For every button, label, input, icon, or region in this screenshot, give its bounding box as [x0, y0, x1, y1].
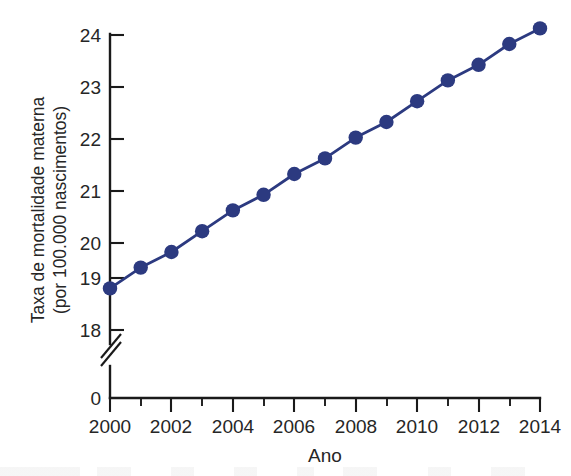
y-axis-title-line2: (por 100.000 nascimentos): [50, 106, 70, 314]
data-point-2000: [103, 281, 117, 295]
data-point-2013: [502, 37, 516, 51]
origin-zero-label: 0: [90, 388, 101, 409]
data-point-2001: [134, 260, 148, 274]
data-point-2008: [349, 130, 363, 144]
x-tick-label-2014: 2014: [519, 416, 562, 437]
y-tick-label-18: 18: [80, 320, 101, 341]
x-tick-label-2000: 2000: [89, 416, 131, 437]
data-point-2003: [195, 224, 209, 238]
y-tick-label-21: 21: [80, 181, 101, 202]
y-tick-label-20: 20: [80, 233, 101, 254]
x-tick-label-2006: 2006: [273, 416, 315, 437]
y-tick-label-24: 24: [80, 25, 102, 46]
data-point-2002: [164, 245, 178, 259]
data-point-2012: [471, 58, 485, 72]
x-axis-title: Ano: [308, 445, 342, 466]
data-point-2005: [256, 188, 270, 202]
cut-off-caption-artifact: [0, 467, 571, 476]
x-tick-label-2010: 2010: [396, 416, 438, 437]
y-axis-title-line1: Taxa de mortalidade materna: [28, 96, 48, 323]
data-point-2011: [441, 73, 455, 87]
data-point-2010: [410, 94, 424, 108]
data-point-2007: [318, 151, 332, 165]
x-tick-label-2012: 2012: [458, 416, 500, 437]
x-tick-label-2008: 2008: [335, 416, 377, 437]
x-tick-label-2002: 2002: [150, 416, 192, 437]
line-chart: 24 23 22 21 20 19: [0, 0, 571, 476]
data-point-2006: [287, 167, 301, 181]
data-point-2014: [533, 21, 547, 35]
chart-figure: 24 23 22 21 20 19: [0, 0, 571, 476]
data-point-2004: [226, 203, 240, 217]
y-tick-label-23: 23: [80, 77, 101, 98]
data-point-2009: [379, 115, 393, 129]
y-tick-label-19: 19: [80, 268, 101, 289]
x-tick-label-2004: 2004: [212, 416, 255, 437]
y-tick-label-22: 22: [80, 129, 101, 150]
